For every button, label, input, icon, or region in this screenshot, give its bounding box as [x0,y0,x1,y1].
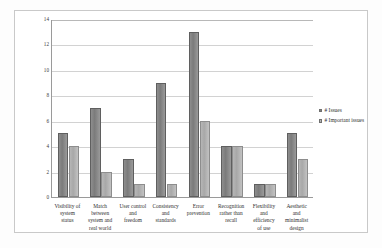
x-axis-tick-label-line: and [117,210,150,217]
legend-entry: # Issues [319,107,382,114]
bar-chart-figure: 02468101214 Visibility ofsystemstatusMat… [0,0,382,248]
bar [189,32,200,197]
x-axis-tick-label: Flexibilityandefficiencyof use [248,203,281,232]
x-axis-tick-label-line: system and [84,217,117,224]
x-axis-tick-label-line: status [51,217,84,224]
legend-swatch-icon [319,109,322,112]
x-axis-tick-label-line: Recognition [215,203,248,210]
x-axis-tick-label-line: prevention [182,210,215,217]
x-axis-tick-label-line: and [280,210,313,217]
bar [221,146,232,197]
x-axis-tick-label-line: standards [149,217,182,224]
x-axis-tick-label-line: minimalist [280,217,313,224]
x-axis-tick-label: Matchbetweensystem andreal world [84,203,117,232]
x-axis-tick-label-line: and [248,210,281,217]
x-axis-tick-label-line: and [149,210,182,217]
bars-layer [52,20,313,197]
bar [200,121,211,197]
bar-group [281,20,314,197]
bar [287,133,298,197]
x-axis-tick-label-line: Aesthetic [280,203,313,210]
x-axis-tick-label: Recognitionrather thanrecall [215,203,248,225]
x-axis-tick-label-line: of use [248,225,281,232]
x-axis-tick-label-line: system [51,210,84,217]
x-axis-tick-label-line: Match [84,203,117,210]
bar [101,172,112,197]
x-axis-tick-label-line: Consistency [149,203,182,210]
bar-group [150,20,183,197]
x-axis-tick-label: Aestheticandminimalistdesign [280,203,313,232]
x-axis-tick-label-line: rather than [215,210,248,217]
bar-group [118,20,151,197]
bar [254,184,265,197]
legend-entry: # Important issues [319,118,382,125]
bar [298,159,309,197]
y-axis-tick-label: 4 [46,145,49,150]
bar-group [52,20,85,197]
x-axis-tick-label: Errorprevention [182,203,215,217]
bar-group [249,20,282,197]
bar [232,146,243,197]
x-axis-tick-label-line: Error [182,203,215,210]
plot-area: 02468101214 [51,20,313,198]
legend-swatch-icon [319,119,322,122]
x-axis-tick-label: Visibility ofsystemstatus [51,203,84,225]
chart-frame: 02468101214 Visibility ofsystemstatusMat… [14,10,368,233]
legend-label: # Important issues [325,118,365,123]
bar [156,83,167,197]
x-axis-tick-label-line: User control [117,203,150,210]
bar-group [85,20,118,197]
bar [265,184,276,197]
y-axis-tick-label: 2 [46,170,49,175]
bar [123,159,134,197]
x-axis-tick-label-line: Flexibility [248,203,281,210]
y-axis-tick-label: 10 [44,68,49,73]
legend-label: # Issues [325,108,342,113]
x-axis-tick-label-line: Visibility of [51,203,84,210]
chart-legend: # Issues# Important issues [319,107,382,128]
bar [69,146,80,197]
y-axis-tick-label: 8 [46,94,49,99]
bar [134,184,145,197]
x-axis-tick-label-line: freedom [117,217,150,224]
y-axis-tick-label: 14 [44,17,49,22]
x-axis-tick-label-line: recall [215,217,248,224]
x-axis-tick-label: Consistencyandstandards [149,203,182,225]
bar-group [216,20,249,197]
x-axis-tick-label-line: real world [84,225,117,232]
y-axis-tick-label: 6 [46,119,49,124]
x-axis-tick-label: User controlandfreedom [117,203,150,225]
bar [167,184,178,197]
x-axis-tick-label-line: efficiency [248,217,281,224]
bar [90,108,101,197]
x-axis-tick-labels: Visibility ofsystemstatusMatchbetweensys… [51,201,313,243]
x-axis-tick-label-line: design [280,225,313,232]
y-axis-tick-label: 12 [44,43,49,48]
bar [58,133,69,197]
x-axis-tick-label-line: between [84,210,117,217]
y-axis-tick-label: 0 [46,195,49,200]
bar-group [183,20,216,197]
